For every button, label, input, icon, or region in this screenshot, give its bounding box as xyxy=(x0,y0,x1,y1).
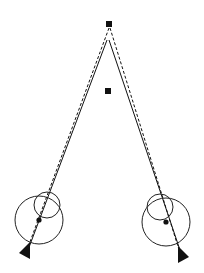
left-eye-marker-triangle-icon xyxy=(19,242,30,259)
right-eye xyxy=(142,194,190,263)
left-dashed-line xyxy=(27,28,109,250)
right-eye-marker-triangle-icon xyxy=(178,246,189,263)
right-eye-center-dot xyxy=(163,219,168,224)
right-dashed-line xyxy=(110,28,180,253)
left-eye-center-dot xyxy=(36,217,41,222)
far-target-square-icon xyxy=(106,21,112,27)
left-eye xyxy=(15,192,63,259)
sight-lines xyxy=(27,28,181,253)
near-target-square-icon xyxy=(105,88,111,94)
binocular-vergence-diagram xyxy=(0,0,204,273)
